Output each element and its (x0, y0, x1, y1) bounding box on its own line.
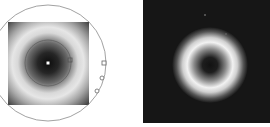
marker-square-outer (102, 61, 106, 65)
noise-speck (225, 33, 226, 34)
center-dot (47, 62, 50, 65)
marker-circle-1 (100, 76, 104, 80)
left-panel (0, 5, 106, 121)
figure (0, 0, 270, 127)
donut-ring (172, 27, 248, 103)
figure-canvas (0, 0, 270, 127)
right-panel (143, 0, 270, 123)
noise-speck (204, 14, 206, 16)
marker-circle-2 (95, 89, 99, 93)
